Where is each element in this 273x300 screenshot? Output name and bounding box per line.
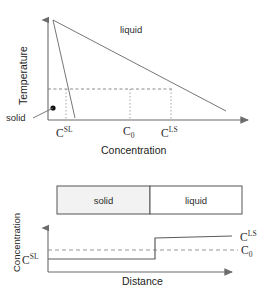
xtick-c0-sub: 0 <box>131 131 135 140</box>
solid-leader-line <box>33 108 53 118</box>
level-label-c0: C0 <box>241 245 252 259</box>
level-csl-sup: SL <box>30 252 39 261</box>
level-cls-base: C <box>240 231 248 243</box>
xtick-label-c0: C0 <box>123 126 134 140</box>
xtick-cls-sup: LS <box>169 125 178 134</box>
caption-fragment <box>0 292 273 300</box>
bar-region-label-liquid: liquid <box>150 195 242 206</box>
xtick-csl-base: C <box>56 127 64 139</box>
phase-y-axis-label: Temperature <box>18 46 29 105</box>
level-label-cls: CLS <box>240 230 257 243</box>
liquid-region-label-top: liquid <box>120 25 142 35</box>
xtick-label-cls: CLS <box>161 126 178 139</box>
xtick-label-csl: CSL <box>56 126 73 139</box>
figure-container: Temperature liquid solid CSL C0 CLS Conc… <box>0 0 273 300</box>
xtick-csl-sup: SL <box>64 125 73 134</box>
profile-x-axis-label: Distance <box>122 276 163 287</box>
level-c0-sub: 0 <box>249 250 253 259</box>
level-csl-base: C <box>22 254 30 266</box>
xtick-cls-base: C <box>161 127 169 139</box>
solid-region-label-top: solid <box>6 113 26 123</box>
profile-y-axis-label: Concentration <box>12 213 22 272</box>
solidus-line <box>53 20 75 118</box>
level-cls-sup: LS <box>248 229 257 238</box>
level-label-csl: CSL <box>22 253 39 266</box>
phase-x-axis-label: Concentration <box>101 145 166 156</box>
xtick-c0-base: C <box>123 125 131 137</box>
level-c0-base: C <box>241 244 249 256</box>
bar-region-label-solid: solid <box>57 195 150 206</box>
concentration-step-curve <box>48 236 232 259</box>
